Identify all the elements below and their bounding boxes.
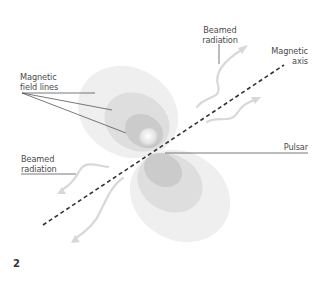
label-beamed-radiation-bottom: Beamed radiation	[21, 154, 81, 174]
label-magnetic-axis: Magnetic axis	[262, 46, 308, 66]
label-pulsar: Pulsar	[270, 142, 308, 152]
radiation-arrow-bot-2	[76, 178, 123, 238]
arrowhead-icon	[238, 45, 248, 54]
radiation-arrow-top-1	[197, 49, 243, 107]
pulsar-diagram	[0, 0, 331, 282]
pulsar-sphere	[139, 128, 159, 148]
figure-number: 2	[13, 258, 20, 269]
label-magnetic-field-lines: Magnetic field lines	[20, 72, 80, 92]
label-beamed-radiation-top: Beamed radiation	[200, 25, 240, 45]
